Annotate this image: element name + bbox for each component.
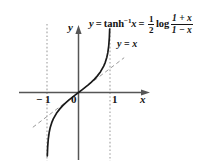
- x-tick-label-one: 1: [112, 94, 118, 105]
- x-tick-label-negative-one: − 1: [36, 94, 51, 105]
- identity-line-label: y = x: [117, 39, 137, 49]
- equation-ratio-denominator: 1 − x: [171, 25, 193, 35]
- equation-equals-first: =: [96, 19, 102, 30]
- x-tick-label-zero: 0: [71, 94, 77, 105]
- equation-annotation: y = tanh −1 x = 1 2 log 1 + x 1 − x: [89, 14, 194, 35]
- equation-log: log: [156, 19, 169, 30]
- figure-inverse-hyperbolic-tangent-plot: y x − 1 0 1 y = x y = tanh −1 x = 1 2 lo…: [0, 0, 224, 168]
- x-axis-label: x: [140, 94, 146, 105]
- equation-coefficient-denominator: 2: [148, 25, 155, 35]
- equation-coefficient-numerator: 1: [148, 15, 155, 26]
- equation-ratio-fraction: 1 + x 1 − x: [171, 14, 193, 35]
- y-axis-label: y: [68, 22, 73, 33]
- equation-argument: x: [131, 19, 136, 30]
- equation-coefficient-fraction: 1 2: [148, 15, 155, 35]
- identity-label-rhs: x: [132, 38, 137, 49]
- y-axis-arrowhead: [75, 25, 81, 34]
- equation-lhs: y: [89, 19, 94, 30]
- equation-ratio-numerator: 1 + x: [171, 14, 193, 25]
- equation-equals-second: =: [138, 19, 144, 30]
- equation-function-name: tanh: [104, 19, 124, 30]
- equation-inverse-exponent: −1: [124, 18, 131, 25]
